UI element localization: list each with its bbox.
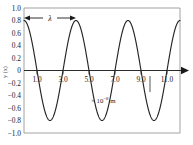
y-tick-label: 0 [17,66,21,75]
y-tick-label: −0.2 [8,79,22,88]
y-tick-label: −0.4 [8,91,22,100]
lambda-arrowhead-right [70,16,76,21]
lambda-arrowhead-left [24,16,30,21]
y-tick-label: 0.8 [12,16,22,25]
lambda-label: λ [47,14,52,23]
y-tick-label: 0.6 [12,29,22,38]
x-tick-label: 5.0 [84,75,94,84]
units-suffix: m [109,97,117,104]
x-tick-label: 11.0 [161,75,174,84]
wave-plot: 1.0 0.8 0.6 0.4 0.2 0 −0.2 −0.4 −0.6 −0.… [0,0,193,145]
y-tick-label: −0.8 [8,116,22,125]
x-axis-arrowhead [181,67,189,74]
chart-screenshot: 1.0 0.8 0.6 0.4 0.2 0 −0.2 −0.4 −0.6 −0.… [0,0,193,145]
y-tick-label: −0.6 [8,104,22,113]
x-axis-ticks: 1.0 3.0 5.0 7.0 9.0 11.0 [32,75,173,84]
x-axis [24,67,189,74]
wavelength-arrow: λ [24,13,76,23]
units-prefix: × 10 [91,97,104,104]
y-tick-label: 0.4 [12,41,22,50]
y-axis-title: y (x) [1,66,9,78]
x-tick-label: 9.0 [136,75,146,84]
y-axis-ticks: 1.0 0.8 0.6 0.4 0.2 0 −0.2 −0.4 −0.6 −0.… [8,4,22,138]
y-tick-label: 0.2 [12,54,22,63]
x-tick-label: 7.0 [110,75,120,84]
y-tick-label: 1.0 [12,4,22,13]
x-tick-label: 1.0 [32,75,42,84]
y-tick-label: −1.0 [8,129,22,138]
units-annotation: × 10−8 m [91,96,116,104]
units-text: × 10−8 m [91,96,116,104]
x-tick-label: 3.0 [58,75,68,84]
x-axis-tickmarks [37,71,167,93]
